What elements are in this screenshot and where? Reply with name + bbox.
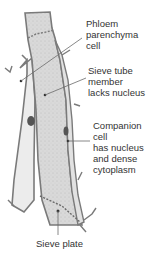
label-sieve-tube-member: Sieve tube member lacks nucleus [88,65,145,98]
label-companion-cell: Companion cell has nucleus and dense cyt… [93,120,157,175]
label-phloem-parenchyma: Phloem parenchyma cell [86,18,138,51]
label-sieve-plate: Sieve plate [36,238,83,249]
companion-nucleus [64,127,69,136]
phloem-parenchyma-cell [12,58,35,212]
parenchyma-nucleus [27,116,35,126]
